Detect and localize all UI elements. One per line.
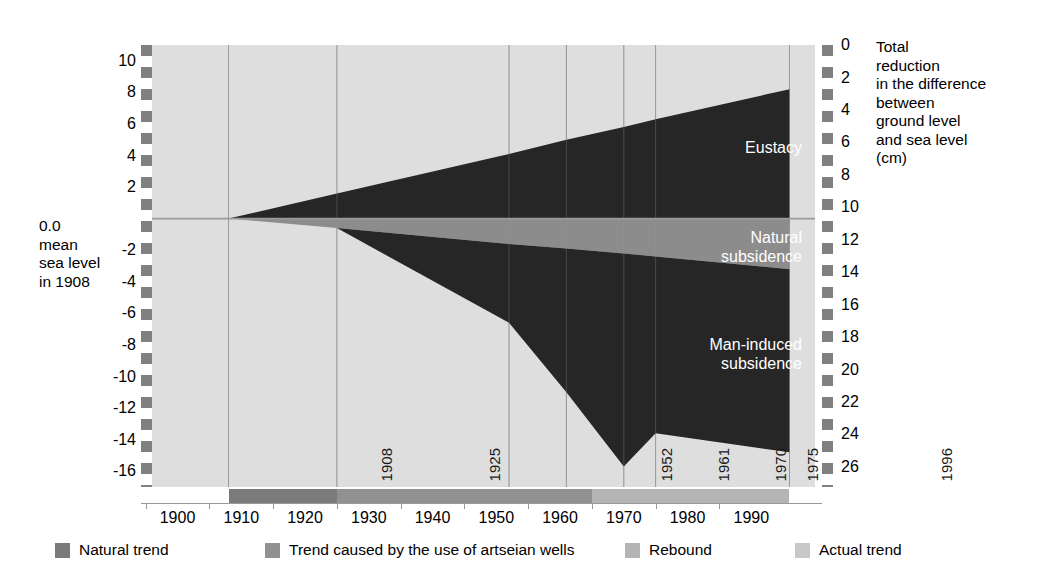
legend-item-2[interactable]: Rebound [625,540,712,560]
right-tick-24: 24 [841,426,871,442]
legend-item-0[interactable]: Natural trend [55,540,169,560]
x-tickmark-1970 [592,503,593,509]
x-tick-label-1940: 1940 [406,509,460,527]
x-tickmark-1900 [146,503,147,509]
right-tick-26: 26 [841,459,871,475]
left-tick--4: -4 [94,274,136,290]
legend-swatch-icon-1 [265,543,280,558]
x-tick-label-1900: 1900 [151,509,205,527]
x-tickmark-1910 [209,503,210,509]
right-caption-line4: between [876,94,1041,113]
area-label-man-line1: Man-induced [572,335,802,354]
right-axis-caption: Total reduction in the difference betwee… [876,38,1041,168]
legend-swatch-icon-2 [625,543,640,558]
left-tick-8: 8 [94,84,136,100]
mean-sea-level-annotation: 0.0 mean sea level in 1908 [39,217,100,291]
event-year-1961: 1961 [715,448,732,481]
area-label-man-induced-subsidence: Man-induced subsidence [572,335,802,373]
x-tick-label-1990: 1990 [724,509,778,527]
legend-label-2: Rebound [649,542,712,558]
event-year-1952: 1952 [658,448,675,481]
timeline-bar [152,489,815,503]
x-tick-label-1950: 1950 [469,509,523,527]
right-caption-line7: (cm) [876,149,1041,168]
right-tick-16: 16 [841,297,871,313]
legend-item-1[interactable]: Trend caused by the use of artseian well… [265,540,574,560]
left-tick-10: 10 [94,53,136,69]
event-year-1908: 1908 [378,448,395,481]
left-tick--8: -8 [94,337,136,353]
left-tick--10: -10 [94,369,136,385]
legend-swatch-icon-0 [55,543,70,558]
left-tick--2: -2 [94,242,136,258]
right-caption-line3: in the difference [876,75,1041,94]
x-tickmark-1920 [273,503,274,509]
x-tick-label-1910: 1910 [214,509,268,527]
left-tick--6: -6 [94,305,136,321]
area-label-eustacy: Eustacy [622,138,802,157]
timeline-segment-1908-1925 [229,489,337,503]
chart-legend: Natural trendTrend caused by the use of … [55,540,1015,562]
x-tick-label-1920: 1920 [278,509,332,527]
area-label-natural-line2: subsidence [582,247,802,266]
right-tick-8: 8 [841,167,871,183]
x-tickmark-1940 [401,503,402,509]
area-label-natural-line1: Natural [582,228,802,247]
msl-line3: sea level [39,254,100,273]
page-showthrough-artifact [255,8,259,24]
event-year-1970: 1970 [772,448,789,481]
chart-root: 1908 1925 1952 1961 1970 1975 1996 Eusta… [0,0,1043,584]
right-caption-line2: reduction [876,57,1041,76]
event-year-1975: 1975 [804,448,821,481]
right-caption-line1: Total [876,38,1041,57]
left-axis-ticks: 108642-2-4-6-8-10-12-14-16 [86,0,136,584]
left-tick--12: -12 [94,400,136,416]
right-caption-line6: and sea level [876,131,1041,150]
right-axis-ticks: 02468101214161820222426 [841,0,881,584]
right-tick-0: 0 [841,37,871,53]
right-tick-14: 14 [841,264,871,280]
msl-line2: mean [39,236,100,255]
area-label-man-line2: subsidence [572,354,802,373]
left-tick--16: -16 [94,463,136,479]
right-tick-12: 12 [841,232,871,248]
x-tickmark-1990 [719,503,720,509]
right-tick-20: 20 [841,362,871,378]
x-tickmark-1980 [656,503,657,509]
msl-line4: in 1908 [39,273,100,292]
right-tick-2: 2 [841,70,871,86]
x-tickmark-1960 [528,503,529,509]
msl-line1: 0.0 [39,217,100,236]
x-tick-label-1980: 1980 [661,509,715,527]
right-tick-18: 18 [841,329,871,345]
chart-svg [152,45,815,487]
legend-label-0: Natural trend [79,542,169,558]
right-axis-bar [822,45,833,487]
left-tick-6: 6 [94,116,136,132]
x-tick-label-1930: 1930 [342,509,396,527]
area-label-eustacy-text: Eustacy [745,139,802,156]
event-year-1996: 1996 [938,448,955,481]
legend-label-3: Actual trend [819,542,902,558]
plot-area: 1908 1925 1952 1961 1970 1975 1996 Eusta… [152,45,815,487]
timeline-segment-1965-1996 [592,489,790,503]
x-tick-label-1970: 1970 [597,509,651,527]
event-year-1925: 1925 [486,448,503,481]
timeline-segment-1925-1965 [337,489,592,503]
right-tick-22: 22 [841,394,871,410]
left-tick-2: 2 [94,179,136,195]
area-label-natural-subsidence: Natural subsidence [582,228,802,266]
legend-item-3[interactable]: Actual trend [795,540,902,560]
right-tick-4: 4 [841,102,871,118]
right-tick-6: 6 [841,134,871,150]
x-tickmark-1930 [337,503,338,509]
left-axis-bar [141,45,152,487]
left-tick-4: 4 [94,148,136,164]
x-tick-label-1960: 1960 [533,509,587,527]
x-tickmark-1950 [464,503,465,509]
legend-swatch-icon-3 [795,543,810,558]
legend-label-1: Trend caused by the use of artseian well… [289,542,574,558]
right-caption-line5: ground level [876,112,1041,131]
right-tick-10: 10 [841,199,871,215]
left-tick--14: -14 [94,432,136,448]
